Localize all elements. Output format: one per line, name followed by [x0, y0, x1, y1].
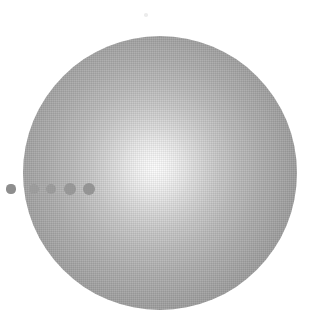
transit-dot-texture: [29, 184, 39, 194]
figure-canvas: [0, 0, 318, 329]
sphere-limb-shading: [23, 36, 297, 310]
speck: [144, 13, 148, 17]
illuminated-sphere: [23, 36, 297, 310]
transit-dot: [29, 184, 39, 194]
transit-dot: [6, 184, 15, 193]
transit-dot: [64, 183, 76, 195]
transit-dot-texture: [6, 184, 15, 193]
transit-dot-texture: [64, 183, 76, 195]
